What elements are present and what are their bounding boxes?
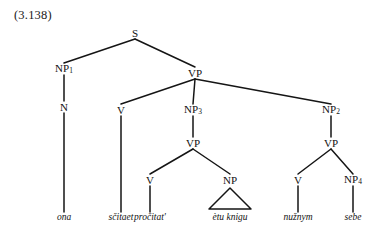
tree-node-n1: N <box>60 102 68 113</box>
tree-node-vp2: VP <box>324 138 338 149</box>
syntax-tree-graphic <box>0 0 391 237</box>
node-category: NP <box>344 173 358 185</box>
tree-node-np0: NP <box>223 175 237 186</box>
tree-edges <box>64 39 353 212</box>
constituent-triangle <box>209 188 251 209</box>
node-index-subscript: 2 <box>336 107 340 116</box>
node-index-subscript: 1 <box>69 66 73 75</box>
node-category: NP <box>184 103 198 115</box>
tree-node-np1: NP1 <box>55 63 73 75</box>
tree-node-v1: V <box>117 105 125 116</box>
node-category: NP <box>55 62 69 74</box>
node-category: NP <box>322 103 336 115</box>
tree-node-v3: V <box>294 175 302 186</box>
tree-terminal-t2: sčitaet <box>109 213 134 223</box>
tree-edge <box>64 39 135 63</box>
tree-node-np3: NP3 <box>184 104 202 116</box>
tree-edge <box>193 79 195 104</box>
node-index-subscript: 4 <box>358 177 362 186</box>
tree-edge <box>193 149 230 174</box>
node-category: N <box>60 101 68 113</box>
node-index-subscript: 3 <box>198 107 202 116</box>
tree-edge <box>121 79 195 104</box>
tree-edge <box>135 39 195 67</box>
tree-node-v2: V <box>146 175 154 186</box>
node-category: S <box>132 27 138 39</box>
node-category: VP <box>186 137 200 149</box>
tree-terminal-t1: ona <box>57 213 71 223</box>
tree-edge <box>298 149 331 174</box>
figure-canvas: (3.138) SNP1VPNVNP3NP2VPVPVNPVNP4onasčit… <box>0 0 391 237</box>
tree-terminal-t5: nužnym <box>283 213 312 223</box>
node-category: V <box>146 174 154 186</box>
tree-terminal-t6: sebe <box>345 213 362 223</box>
tree-edge <box>150 149 193 174</box>
node-category: VP <box>324 137 338 149</box>
node-category: VP <box>188 67 202 79</box>
tree-node-s: S <box>132 28 138 39</box>
tree-terminal-t3: pročitat' <box>134 213 166 223</box>
tree-edge <box>331 149 353 174</box>
node-category: NP <box>223 174 237 186</box>
tree-edge <box>195 79 331 104</box>
node-category: V <box>294 174 302 186</box>
tree-node-np2: NP2 <box>322 104 340 116</box>
tree-node-vp1: VP <box>186 138 200 149</box>
tree-terminal-t4: ètu knigu <box>212 213 247 223</box>
tree-triangles <box>209 188 251 209</box>
node-category: V <box>117 104 125 116</box>
tree-node-vp0: VP <box>188 68 202 79</box>
tree-node-np4: NP4 <box>344 174 362 186</box>
